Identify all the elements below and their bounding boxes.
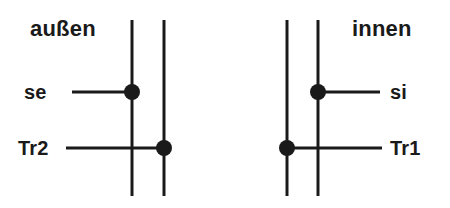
label-si: si xyxy=(390,82,407,102)
label-tr1: Tr1 xyxy=(390,138,421,158)
label-tr2: Tr2 xyxy=(18,138,49,158)
se-connection-node xyxy=(124,84,140,100)
tr2-connection-node xyxy=(156,140,172,156)
si-connection-node xyxy=(310,84,326,100)
label-inside: innen xyxy=(352,18,412,40)
label-se: se xyxy=(24,82,47,102)
label-outside: außen xyxy=(30,18,96,40)
tr1-connection-node xyxy=(279,140,295,156)
wiring-schematic-diagram: außen innen se si Tr2 Tr1 xyxy=(0,0,450,208)
